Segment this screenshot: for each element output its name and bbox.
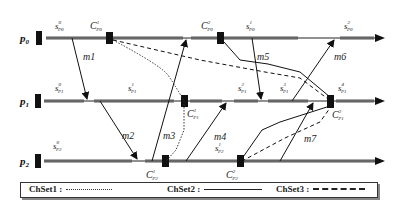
process-label-p0: p0 <box>19 32 30 46</box>
dashed-line-swatch <box>313 188 365 190</box>
message-m5 <box>252 38 261 99</box>
label-C2-p1: C2P1 <box>332 109 344 121</box>
message-m6 <box>292 40 334 101</box>
label-m1: m1 <box>83 51 95 62</box>
process-label-p2: p2 <box>19 155 30 169</box>
legend-label: ChSet1 : <box>29 184 62 194</box>
message-m1 <box>72 38 87 99</box>
svg-text:C2P0: C2P0 <box>201 20 213 32</box>
svg-text:s0P2: s0P2 <box>53 140 62 152</box>
timeline-p0 <box>36 31 385 45</box>
svg-text:C1P0: C1P0 <box>90 20 102 32</box>
svg-text:C1P1: C1P1 <box>187 108 199 120</box>
svg-text:C2P2: C2P2 <box>226 169 238 181</box>
legend-item-chset3: ChSet3 : <box>276 184 365 194</box>
svg-text:C1P2: C1P2 <box>146 169 158 181</box>
checkpoint-C2-p0 <box>217 32 224 44</box>
label-C2-p0: C2P0 <box>201 20 213 32</box>
label-s0-p0: s0P0 <box>55 20 64 32</box>
svg-text:s2P0: s2P0 <box>344 20 353 32</box>
timeline-p2 <box>35 154 385 168</box>
label-m7: m7 <box>304 133 317 144</box>
label-m4: m4 <box>214 131 226 142</box>
dotted-line-swatch <box>66 189 112 190</box>
label-C1-p1: C1P1 <box>187 108 199 120</box>
process-start-marker <box>35 154 41 168</box>
timeline-p1 <box>35 94 385 108</box>
label-s1-p1: s1P1 <box>128 82 137 94</box>
checkpoint-C1-p0 <box>106 32 113 44</box>
label-s0-p2: s0P2 <box>53 140 62 152</box>
process-label-p1: p1 <box>19 95 29 109</box>
svg-text:s2P1: s2P1 <box>238 82 247 94</box>
label-m5: m5 <box>257 51 269 62</box>
legend-item-chset2: ChSet2 : <box>167 184 262 194</box>
svg-text:s1P1: s1P1 <box>128 82 137 94</box>
label-m3: m3 <box>163 130 175 141</box>
arrowhead-icon <box>375 34 385 42</box>
label-C1-p2: C1P2 <box>146 169 158 181</box>
legend: ChSet1 : ChSet2 : ChSet3 : <box>20 182 378 198</box>
label-s2-p1: s2P1 <box>238 82 247 94</box>
legend-label: ChSet3 : <box>276 184 309 194</box>
checkpoint-C1-p2 <box>162 155 169 167</box>
label-s3-p1: s3P1 <box>280 82 289 94</box>
message-m7 <box>280 103 313 161</box>
label-s2-p0: s2P0 <box>344 20 353 32</box>
label-s1-p0: s1P0 <box>246 20 255 32</box>
process-start-marker <box>35 94 41 108</box>
svg-text:s1P0: s1P0 <box>246 20 255 32</box>
label-m6: m6 <box>334 51 346 62</box>
arrowhead-icon <box>375 97 385 105</box>
solid-line-swatch <box>204 189 262 190</box>
label-s1-p2: s1P2 <box>215 142 224 154</box>
process-start-marker <box>36 31 42 45</box>
svg-text:s4P1: s4P1 <box>338 82 347 94</box>
checkpoint-diagram: p0 p1 p2 s0P0 C1P0 C2P0 s1P0 s2P0 s0P1 s… <box>0 0 397 212</box>
label-C2-p2: C2P2 <box>226 169 238 181</box>
arrowhead-icon <box>375 157 385 165</box>
label-s4-p1: s4P1 <box>338 82 347 94</box>
label-s0-p1: s0P1 <box>55 82 64 94</box>
svg-text:s0P1: s0P1 <box>55 82 64 94</box>
label-C1-p0: C1P0 <box>90 20 102 32</box>
label-m2: m2 <box>122 130 134 141</box>
legend-item-chset1: ChSet1 : <box>29 184 112 194</box>
legend-label: ChSet2 : <box>167 184 200 194</box>
svg-text:C2P1: C2P1 <box>332 109 344 121</box>
svg-text:s1P2: s1P2 <box>215 142 224 154</box>
svg-text:s3P1: s3P1 <box>280 82 289 94</box>
svg-text:s0P0: s0P0 <box>55 20 64 32</box>
